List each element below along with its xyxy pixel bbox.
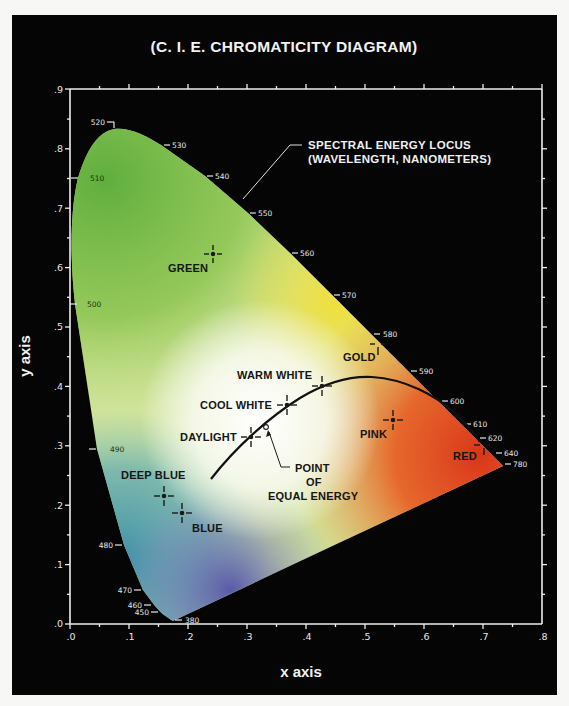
x-tick-label: .2 (184, 631, 193, 642)
locus-note-line1: SPECTRAL ENERGY LOCUS (308, 139, 471, 151)
chromaticity-diagram: (C. I. E. CHROMATICITY DIAGRAM) (0, 0, 569, 706)
x-tick-labels: .0 .1 .2 .3 .4 .5 .6 .7 .8 (66, 631, 547, 642)
label-equal-energy-line2: OF (306, 476, 322, 488)
wavelength-label-490: 490 (110, 445, 125, 454)
wavelength-label-570: 570 (342, 291, 357, 300)
x-tick-label: .0 (66, 631, 75, 642)
wavelength-label-540: 540 (215, 172, 230, 181)
wavelength-label-620: 620 (488, 434, 503, 443)
wavelength-label-460: 460 (128, 601, 143, 610)
wavelength-label-480: 480 (99, 541, 114, 550)
wavelength-label-600: 600 (450, 397, 465, 406)
wavelength-label-780: 780 (513, 460, 528, 469)
wavelength-label-610: 610 (473, 420, 488, 429)
label-equal-energy-line1: POINT (295, 462, 330, 474)
label-pink: PINK (360, 428, 387, 440)
y-tick-label: .3 (54, 440, 63, 451)
diagram-title: (C. I. E. CHROMATICITY DIAGRAM) (150, 38, 417, 55)
wavelength-label-640: 640 (504, 449, 519, 458)
wavelength-label-530: 530 (172, 141, 187, 150)
wavelength-label-500: 500 (87, 300, 102, 309)
wavelength-label-470: 470 (118, 586, 133, 595)
wavelength-label-520: 520 (91, 118, 106, 127)
y-tick-label: .2 (54, 500, 63, 511)
label-blue: BLUE (192, 522, 223, 534)
y-tick-label: .7 (54, 203, 63, 214)
wavelength-label-550: 550 (258, 209, 273, 218)
y-tick-label: .0 (54, 618, 63, 629)
x-tick-label: .6 (420, 631, 429, 642)
locus-note-line2: (WAVELENGTH, NANOMETERS) (308, 153, 491, 165)
label-daylight: DAYLIGHT (180, 431, 237, 443)
y-tick-label: .9 (54, 84, 63, 95)
x-tick-label: .5 (361, 631, 370, 642)
label-deep-blue: DEEP BLUE (121, 469, 186, 481)
wavelength-label-510: 510 (90, 174, 105, 183)
x-tick-label: .3 (243, 631, 252, 642)
wavelength-label-380: 380 (185, 616, 200, 625)
label-red: RED (453, 450, 477, 462)
y-tick-label: .4 (54, 381, 63, 392)
spectral-locus-annotation: SPECTRAL ENERGY LOCUS (WAVELENGTH, NANOM… (243, 139, 491, 199)
label-gold: GOLD (343, 351, 376, 363)
wavelength-label-590: 590 (419, 367, 434, 376)
x-axis-label: x axis (280, 663, 322, 680)
x-tick-label: .7 (479, 631, 488, 642)
label-warm-white: WARM WHITE (237, 369, 312, 381)
y-axis-label: y axis (16, 335, 33, 377)
label-equal-energy-line3: EQUAL ENERGY (268, 490, 359, 502)
y-tick-label: .5 (54, 321, 63, 332)
wavelength-label-560: 560 (300, 249, 315, 258)
label-green: GREEN (168, 262, 208, 274)
x-tick-label: .1 (125, 631, 134, 642)
y-tick-label: .8 (54, 143, 63, 154)
y-tick-labels: .0 .1 .2 .3 .4 .5 .6 .7 .8 .9 (54, 84, 63, 629)
y-tick-label: .6 (54, 262, 63, 273)
x-tick-label: .4 (302, 631, 311, 642)
label-cool-white: COOL WHITE (200, 399, 272, 411)
wavelength-label-580: 580 (383, 330, 398, 339)
y-tick-label: .1 (54, 559, 63, 570)
x-tick-label: .8 (538, 631, 547, 642)
